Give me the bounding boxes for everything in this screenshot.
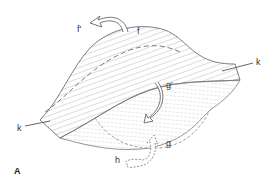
label-h: h — [115, 156, 120, 165]
label-k-right: k — [256, 58, 261, 67]
panel-label: A — [14, 167, 21, 176]
f-arrow — [90, 16, 128, 32]
label-f: f — [137, 27, 140, 36]
label-g: g — [166, 139, 171, 148]
label-k-left: k — [17, 124, 22, 133]
label-f-prime: f' — [77, 25, 81, 34]
label-g-prime: g' — [166, 81, 173, 90]
